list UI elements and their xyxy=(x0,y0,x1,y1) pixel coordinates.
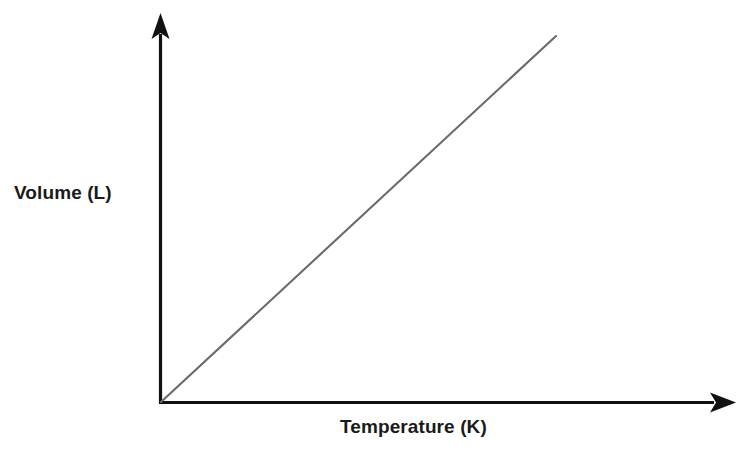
plot-area xyxy=(0,0,743,464)
y-axis-label: Volume (L) xyxy=(14,183,112,202)
volume-temperature-line xyxy=(161,36,556,402)
x-axis-label: Temperature (K) xyxy=(340,417,487,436)
chart-figure: Volume (L) Temperature (K) xyxy=(0,0,743,464)
